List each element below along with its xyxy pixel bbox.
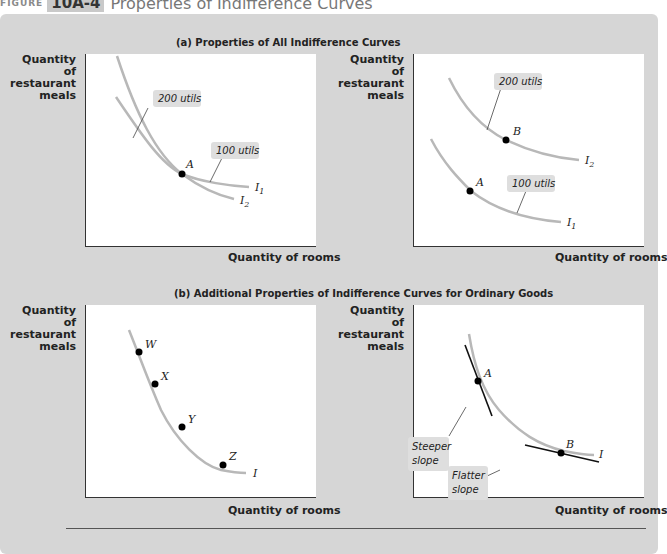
chart-a-left: 200 utils 100 utils A I1 I2 <box>85 54 316 247</box>
steeper-slope-label: Steeper <box>412 441 452 452</box>
label-I1: I1 <box>254 181 264 196</box>
flatter-slope-label-2: slope <box>452 484 479 495</box>
point-X-label: X <box>160 370 170 383</box>
b-left-xlabel: Quantity of rooms <box>228 504 340 517</box>
ylabel-line: meals <box>6 341 76 353</box>
point-B-label: B <box>512 125 521 138</box>
point-Y-label: Y <box>188 413 197 426</box>
point-A-label: A <box>185 158 194 171</box>
point-Y <box>179 424 186 431</box>
label-I2: I2 <box>584 154 594 169</box>
a-left-xlabel: Quantity of rooms <box>228 251 340 264</box>
a-left-ylabel: Quantity of restaurant meals <box>6 54 76 102</box>
ylabel-line: Quantity of <box>334 54 404 78</box>
label-I1: I1 <box>566 216 576 231</box>
chart-a-right: 200 utils 100 utils B A I2 I1 <box>413 54 644 247</box>
label-I2: I2 <box>239 194 249 209</box>
label-100-utils: 100 utils <box>216 145 259 156</box>
ylabel-line: Quantity of <box>334 305 404 329</box>
point-A-label: A <box>483 367 492 380</box>
label-200-utils: 200 utils <box>499 76 542 87</box>
label-I: I <box>252 467 258 480</box>
point-W <box>136 349 143 356</box>
a-right-ylabel: Quantity of restaurant meals <box>334 54 404 102</box>
section-b-title: (b) Additional Properties of Indifferenc… <box>174 288 553 299</box>
curve-I2 <box>117 56 234 199</box>
chart-b-left: W X Y Z I <box>85 305 316 498</box>
a-right-xlabel: Quantity of rooms <box>555 251 667 264</box>
chart-b-left-svg: W X Y Z I <box>86 305 316 497</box>
section-a-title: (a) Properties of All Indifference Curve… <box>176 37 401 48</box>
label-100-utils: 100 utils <box>512 178 555 189</box>
b-left-ylabel: Quantity of restaurant meals <box>6 305 76 353</box>
point-A <box>179 171 186 178</box>
ylabel-line: meals <box>334 341 404 353</box>
figure-word: FIGURE <box>0 0 43 8</box>
figure-title: FIGURE 10A-4 Properties of Indifference … <box>0 0 373 12</box>
point-W-label: W <box>145 338 158 351</box>
point-Z <box>220 462 227 469</box>
point-B <box>558 450 565 457</box>
flatter-slope-label: Flatter <box>452 470 486 481</box>
ylabel-line: Quantity of <box>6 305 76 329</box>
label-200-utils: 200 utils <box>158 93 201 104</box>
curve-I2 <box>449 78 579 160</box>
point-X <box>152 381 159 388</box>
ylabel-line: Quantity of <box>6 54 76 78</box>
chart-a-right-svg: 200 utils 100 utils B A I2 I1 <box>414 54 644 246</box>
point-A <box>467 188 474 195</box>
point-A-label: A <box>475 176 484 189</box>
point-B-label: B <box>565 438 574 451</box>
ylabel-line: meals <box>334 90 404 102</box>
b-right-ylabel: Quantity of restaurant meals <box>334 305 404 353</box>
point-B <box>503 137 510 144</box>
figure-name: Properties of Indifference Curves <box>110 0 372 13</box>
label-I: I <box>598 448 604 461</box>
figure-number: 10A-4 <box>47 0 104 12</box>
chart-a-left-svg: 200 utils 100 utils A I1 I2 <box>86 54 316 246</box>
caption-divider <box>66 528 646 529</box>
ylabel-line: meals <box>6 90 76 102</box>
b-right-xlabel: Quantity of rooms <box>555 504 667 517</box>
flatter-label: Flatter slope <box>448 466 490 506</box>
point-Z-label: Z <box>228 450 237 463</box>
steeper-slope-label-2: slope <box>412 455 439 466</box>
